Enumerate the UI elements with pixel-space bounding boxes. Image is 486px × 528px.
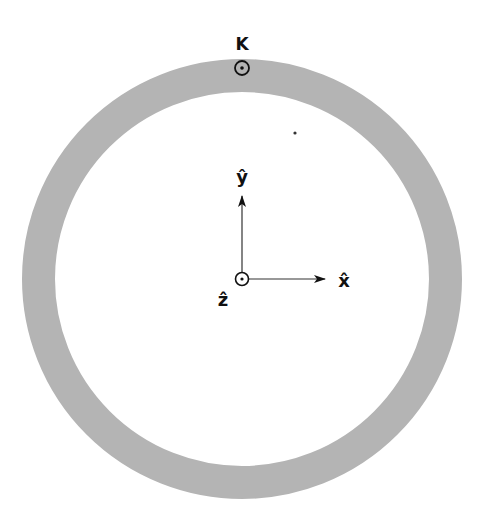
speck-artifact <box>293 131 296 134</box>
z-axis-out-of-page-icon <box>236 273 249 286</box>
y-axis-label: ŷ <box>236 166 248 187</box>
current-label-k: K <box>235 34 249 54</box>
diagram-canvas: K ŷ x̂ ẑ <box>0 0 486 528</box>
z-axis-label: ẑ <box>218 289 228 310</box>
x-axis-label: x̂ <box>338 270 350 291</box>
